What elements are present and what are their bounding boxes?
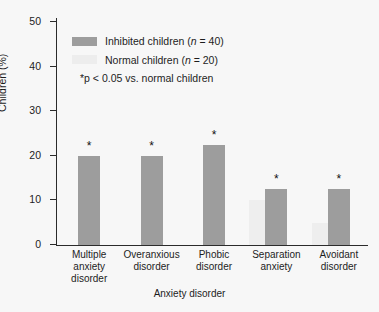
y-tick-label-30: 30 [29,105,41,116]
bar-inhibited-separation-anxiety [265,189,287,245]
y-tick-label-20: 20 [29,150,41,161]
x-tick-label-multiple-anxiety-disorder: Multiple anxiety disorder [53,249,125,286]
legend-item-inhibited: Inhibited children (n = 40) [72,36,224,47]
x-axis-title: Anxiety disorder [0,288,379,299]
x-tick-label-phobic-disorder: Phobic disorder [178,249,250,273]
bar-group-separation-anxiety: * [243,22,305,245]
bar-inhibited-phobic-disorder [203,145,225,245]
bar-inhibited-multiple-anxiety-disorder [78,156,100,245]
bar-inhibited-avoidant-disorder [328,189,350,245]
y-tick-label-0: 0 [35,239,41,250]
legend-label-inhibited: Inhibited children (n = 40) [105,36,224,47]
legend-swatch-normal [72,55,97,64]
y-tick-label-50: 50 [29,16,41,27]
x-axis-line [56,245,368,246]
bar-inhibited-overanxious-disorder [141,156,163,245]
significance-star-separation-anxiety: * [274,173,279,185]
y-tick-label-10: 10 [29,194,41,205]
legend-item-normal: Normal children (n = 20) [72,55,224,66]
legend: Inhibited children (n = 40) Normal child… [72,36,224,84]
y-tick-label-40: 40 [29,60,41,71]
significance-star-multiple-anxiety-disorder: * [87,140,92,152]
x-tick-label-overanxious-disorder: Overanxious disorder [116,249,188,273]
bar-group-avoidant-disorder: * [306,22,368,245]
x-tick-label-avoidant-disorder: Avoidant disorder [303,249,375,273]
significance-star-overanxious-disorder: * [149,140,154,152]
significance-star-phobic-disorder: * [212,129,217,141]
y-axis-title: Children (%) [0,54,8,112]
significance-star-avoidant-disorder: * [336,173,341,185]
pvalue-note: *p < 0.05 vs. normal children [80,73,224,84]
bar-chart-figure: Children (%) Anxiety disorder 0102030405… [0,0,379,312]
legend-swatch-inhibited [72,37,97,46]
legend-label-normal: Normal children (n = 20) [105,55,218,66]
x-tick-label-separation-anxiety: Separation anxiety [240,249,312,273]
